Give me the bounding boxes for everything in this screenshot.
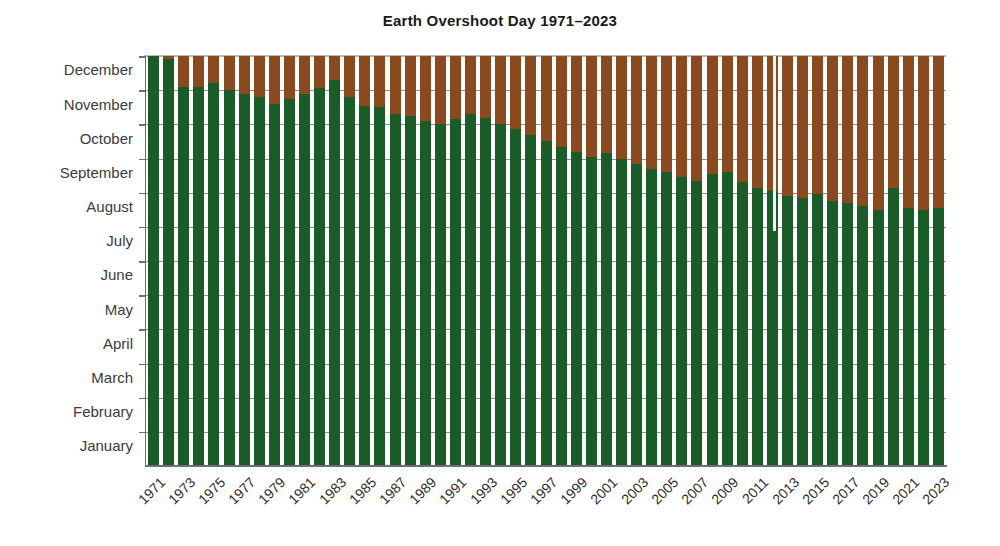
bar-1982[interactable] — [314, 56, 325, 466]
x-axis-label-1991: 1991 — [427, 474, 469, 516]
bar-segment-overshoot — [631, 56, 642, 164]
x-axis-label-1981: 1981 — [276, 474, 318, 516]
y-tick-october — [139, 124, 146, 126]
bar-2008[interactable] — [707, 56, 718, 466]
bar-segment-overshoot — [465, 56, 476, 114]
y-axis-label-march: March — [0, 368, 133, 385]
bar-segment-within-budget — [193, 87, 204, 466]
bar-segment-within-budget — [888, 188, 899, 466]
bar-1980[interactable] — [284, 56, 295, 466]
bar-segment-within-budget — [541, 141, 552, 466]
bar-2022[interactable] — [918, 56, 929, 466]
bar-segment-overshoot — [329, 56, 340, 80]
x-axis-label-1985: 1985 — [337, 474, 379, 516]
bar-1991[interactable] — [450, 56, 461, 466]
bar-1987[interactable] — [390, 56, 401, 466]
bar-2016[interactable] — [827, 56, 838, 466]
bar-1972[interactable] — [163, 56, 174, 466]
y-axis-label-january: January — [0, 437, 133, 454]
bar-2010[interactable] — [737, 56, 748, 466]
bar-segment-overshoot — [782, 56, 793, 196]
bar-segment-within-budget — [707, 174, 718, 466]
bar-2021[interactable] — [903, 56, 914, 466]
bar-1996[interactable] — [525, 56, 536, 466]
bar-2020[interactable] — [888, 56, 899, 466]
x-axis-label-2013: 2013 — [759, 474, 801, 516]
bar-2014[interactable] — [797, 56, 808, 466]
bar-segment-within-budget — [435, 124, 446, 466]
x-axis-label-2011: 2011 — [729, 474, 771, 516]
bar-2019[interactable] — [873, 56, 884, 466]
bar-segment-overshoot — [812, 56, 823, 194]
bar-1999[interactable] — [571, 56, 582, 466]
bar-1981[interactable] — [299, 56, 310, 466]
bar-1975[interactable] — [208, 56, 219, 466]
bar-1985[interactable] — [359, 56, 370, 466]
bar-segment-overshoot — [601, 56, 612, 153]
bar-1979[interactable] — [269, 56, 280, 466]
bar-1973[interactable] — [178, 56, 189, 466]
x-axis-label-1987: 1987 — [367, 474, 409, 516]
x-axis-label-1995: 1995 — [488, 474, 530, 516]
bar-2017[interactable] — [842, 56, 853, 466]
bar-1971[interactable] — [148, 56, 159, 466]
bar-segment-within-budget — [450, 119, 461, 466]
bar-1983[interactable] — [329, 56, 340, 466]
bar-2009[interactable] — [722, 56, 733, 466]
y-tick-june — [139, 261, 146, 263]
bar-2000[interactable] — [586, 56, 597, 466]
bar-segment-overshoot — [254, 56, 265, 97]
bar-segment-overshoot — [390, 56, 401, 114]
bar-1978[interactable] — [254, 56, 265, 466]
y-tick-july — [139, 227, 146, 229]
bar-1994[interactable] — [495, 56, 506, 466]
x-axis-label-1997: 1997 — [518, 474, 560, 516]
x-axis-label-1979: 1979 — [246, 474, 288, 516]
bar-1992[interactable] — [465, 56, 476, 466]
bar-1976[interactable] — [224, 56, 235, 466]
x-axis-label-1983: 1983 — [307, 474, 349, 516]
bar-1997[interactable] — [541, 56, 552, 466]
chart-title: Earth Overshoot Day 1971–2023 — [0, 12, 1000, 29]
bar-2003[interactable] — [631, 56, 642, 466]
bar-segment-overshoot — [344, 56, 355, 97]
bar-segment-overshoot — [556, 56, 567, 147]
bar-segment-overshoot — [918, 56, 929, 210]
bar-2011[interactable] — [752, 56, 763, 466]
bar-1977[interactable] — [239, 56, 250, 466]
x-axis-label-1971: 1971 — [125, 474, 167, 516]
bar-2018[interactable] — [857, 56, 868, 466]
y-axis-label-february: February — [0, 403, 133, 420]
bar-segment-within-budget — [224, 90, 235, 466]
bar-2005[interactable] — [661, 56, 672, 466]
bar-1990[interactable] — [435, 56, 446, 466]
bar-1986[interactable] — [374, 56, 385, 466]
bar-segment-within-budget — [767, 191, 778, 466]
bar-1995[interactable] — [510, 56, 521, 466]
chart-root: Earth Overshoot Day 1971–2023 DecemberNo… — [0, 0, 1000, 546]
bar-2006[interactable] — [676, 56, 687, 466]
bar-1988[interactable] — [405, 56, 416, 466]
bar-1974[interactable] — [193, 56, 204, 466]
bar-segment-within-budget — [616, 159, 627, 467]
bar-2015[interactable] — [812, 56, 823, 466]
bar-2002[interactable] — [616, 56, 627, 466]
bar-2023[interactable] — [933, 56, 944, 466]
bar-2007[interactable] — [691, 56, 702, 466]
bar-segment-overshoot — [857, 56, 868, 206]
bar-2004[interactable] — [646, 56, 657, 466]
bar-1984[interactable] — [344, 56, 355, 466]
bar-segment-within-budget — [646, 169, 657, 466]
bar-2013[interactable] — [782, 56, 793, 466]
bar-segment-overshoot — [269, 56, 280, 104]
x-axis-label-1993: 1993 — [457, 474, 499, 516]
bar-1993[interactable] — [480, 56, 491, 466]
x-axis-label-1977: 1977 — [216, 474, 258, 516]
x-axis-label-1989: 1989 — [397, 474, 439, 516]
y-tick-august — [139, 193, 146, 195]
bar-segment-overshoot — [208, 56, 219, 83]
bar-1989[interactable] — [420, 56, 431, 466]
bar-segment-within-budget — [722, 172, 733, 466]
bar-1998[interactable] — [556, 56, 567, 466]
bar-2001[interactable] — [601, 56, 612, 466]
